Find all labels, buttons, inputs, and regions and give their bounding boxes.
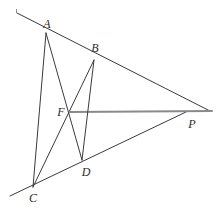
corner-tick-mark	[16, 9, 17, 13]
marks-group	[16, 9, 17, 13]
segments-group	[10, 13, 212, 196]
point-label-b: B	[91, 42, 98, 54]
geometry-figure: ABFPDC	[0, 0, 217, 217]
point-label-f: F	[57, 106, 64, 118]
line-f-p	[70, 111, 212, 112]
line-c-d-p	[10, 112, 186, 196]
point-label-d: D	[82, 166, 91, 178]
point-label-p: P	[188, 118, 195, 130]
point-label-c: C	[29, 192, 37, 204]
point-label-a: A	[43, 18, 50, 30]
side-b-d	[82, 60, 94, 160]
figure-canvas	[0, 0, 217, 217]
